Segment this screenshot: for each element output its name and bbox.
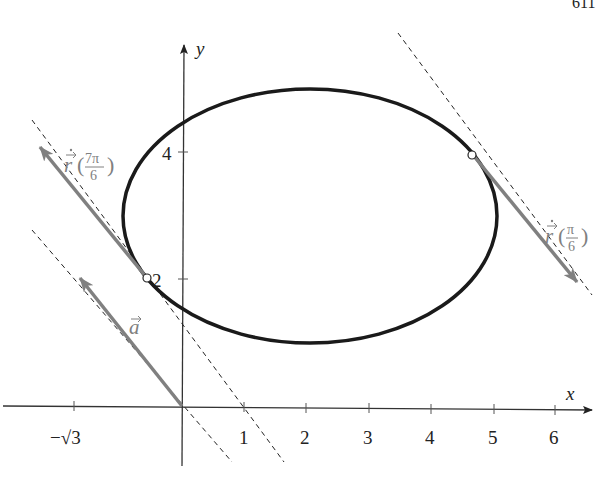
page-number: 611	[572, 0, 595, 11]
svg-text:7π: 7π	[85, 151, 99, 166]
dashed-lines	[32, 33, 592, 462]
x-axis	[3, 406, 592, 410]
x-tick-label-4: 4	[425, 427, 435, 448]
svg-text:r: r	[64, 153, 73, 177]
x-tick-label-6: 6	[549, 427, 559, 448]
figure: 611 −√3 1 2 3 4 5 6 4 2 x y	[0, 0, 612, 484]
svg-text:6: 6	[568, 239, 575, 254]
vector-r-dot-pi6	[473, 155, 577, 282]
x-tick-label-neg-sqrt3: −√3	[50, 427, 81, 448]
dashed-line-tangent-pi6	[398, 33, 592, 295]
svg-text:(: (	[558, 223, 565, 248]
x-tick-label-3: 3	[363, 427, 373, 448]
svg-text:(: (	[77, 152, 84, 177]
point-pi6	[468, 151, 476, 159]
svg-text:6: 6	[90, 168, 97, 183]
x-tick-label-1: 1	[239, 427, 249, 448]
svg-text:π: π	[567, 222, 574, 237]
x-axis-label: x	[565, 383, 575, 404]
x-tick-label-5: 5	[488, 427, 498, 448]
y-tick-label-4: 4	[162, 143, 172, 164]
ellipse-curve	[123, 89, 497, 343]
svg-text:r: r	[545, 224, 554, 248]
svg-text:): )	[107, 152, 114, 177]
label-vector-a: a	[129, 315, 141, 339]
label-r-dot-7pi6: r ( 7π 6 )	[64, 149, 114, 183]
point-7pi6	[143, 274, 151, 282]
x-tick-label-2: 2	[300, 427, 310, 448]
y-axis	[182, 45, 184, 466]
svg-text:): )	[581, 223, 588, 248]
y-axis-label: y	[194, 38, 205, 59]
